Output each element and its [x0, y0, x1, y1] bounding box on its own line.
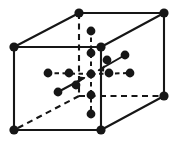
unit-cell-diagram: [0, 0, 177, 149]
atom-front-top-left: [9, 42, 18, 51]
atom-equatorial-right-outer: [126, 69, 135, 78]
atom-equatorial-left-inner: [65, 69, 74, 78]
atom-front-bottom-left: [9, 125, 18, 134]
atom-front-top-right: [96, 42, 105, 51]
atom-back-bottom-right: [159, 91, 168, 100]
atom-back-top-left: [74, 8, 83, 17]
edge-back-bottom-left-to-front-bottom-left: [14, 96, 79, 130]
edge-front-top-right-to-back-top-right: [101, 13, 164, 47]
atom-back-top-right: [159, 8, 168, 17]
atom-diagonal-upper-right-outer: [121, 51, 130, 60]
atom-center: [87, 70, 96, 79]
atom-axial-up-outer: [87, 27, 96, 36]
edge-front-bottom-right-to-back-bottom-right: [101, 96, 164, 130]
atom-diagonal-upper-right-inner: [103, 56, 112, 65]
atom-diagonal-lower-left-inner: [72, 81, 81, 90]
atom-front-bottom-right: [96, 125, 105, 134]
lattice-figure: Crystal lattice unit cell with central o…: [0, 0, 177, 149]
atom-equatorial-left-outer: [44, 69, 53, 78]
atom-equatorial-right-inner: [105, 69, 114, 78]
atom-axial-up-inner: [87, 49, 96, 58]
arrow-head-lower-left: [79, 77, 86, 84]
atom-diagonal-lower-left-outer: [54, 88, 63, 97]
atom-axial-down-outer: [87, 110, 96, 119]
atom-axial-down-inner: [87, 91, 96, 100]
edge-front-top-left-to-back-top-left: [14, 13, 79, 47]
